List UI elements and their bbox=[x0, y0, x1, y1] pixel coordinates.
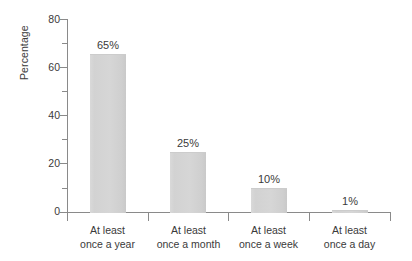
bar-at-least-once-a-day bbox=[332, 210, 368, 213]
bar-at-least-once-a-week bbox=[251, 188, 287, 213]
x-category-label-line2: once a day bbox=[309, 238, 390, 252]
y-tick-label-20: 20 bbox=[32, 158, 60, 169]
x-separator-tick-2 bbox=[228, 212, 229, 221]
y-tick-minor-10 bbox=[62, 188, 67, 189]
value-label-at-least-once-a-year: 65% bbox=[78, 39, 138, 51]
x-category-label-at-least-once-a-year: At least once a year bbox=[67, 224, 148, 251]
x-category-label-line1: At least bbox=[67, 224, 148, 238]
y-tick-major-0 bbox=[59, 212, 67, 213]
x-category-label-line2: once a month bbox=[148, 238, 229, 252]
bar-at-least-once-a-month bbox=[170, 152, 206, 213]
y-tick-major-80 bbox=[59, 19, 67, 20]
x-category-label-at-least-once-a-week: At least once a week bbox=[228, 224, 309, 251]
y-tick-label-40: 40 bbox=[32, 110, 60, 121]
x-separator-tick-1 bbox=[148, 212, 149, 221]
y-tick-major-20 bbox=[59, 163, 67, 164]
y-tick-major-60 bbox=[59, 67, 67, 68]
y-axis-title: Percentage bbox=[18, 0, 32, 80]
y-tick-minor-70 bbox=[62, 43, 67, 44]
y-tick-major-40 bbox=[59, 115, 67, 116]
x-category-label-line2: once a week bbox=[228, 238, 309, 252]
x-separator-tick-3 bbox=[309, 212, 310, 221]
x-separator-tick-0 bbox=[67, 212, 68, 221]
x-category-label-line1: At least bbox=[148, 224, 229, 238]
x-separator-tick-4 bbox=[390, 212, 391, 221]
x-category-label-at-least-once-a-month: At least once a month bbox=[148, 224, 229, 251]
value-label-at-least-once-a-week: 10% bbox=[239, 173, 299, 185]
x-category-label-at-least-once-a-day: At least once a day bbox=[309, 224, 390, 251]
y-tick-label-0: 0 bbox=[32, 206, 60, 217]
x-category-label-line1: At least bbox=[309, 224, 390, 238]
y-tick-minor-50 bbox=[62, 91, 67, 92]
value-label-at-least-once-a-day: 1% bbox=[320, 195, 380, 207]
y-axis-line bbox=[67, 19, 68, 213]
x-category-label-line2: once a year bbox=[67, 238, 148, 252]
y-tick-label-80: 80 bbox=[32, 14, 60, 25]
value-label-at-least-once-a-month: 25% bbox=[158, 137, 218, 149]
x-category-label-line1: At least bbox=[228, 224, 309, 238]
bar-at-least-once-a-year bbox=[90, 54, 126, 213]
y-tick-label-60: 60 bbox=[32, 62, 60, 73]
bar-chart: Percentage 80 60 40 20 0 65% 25% 10% 1% … bbox=[0, 0, 412, 261]
y-tick-minor-30 bbox=[62, 139, 67, 140]
